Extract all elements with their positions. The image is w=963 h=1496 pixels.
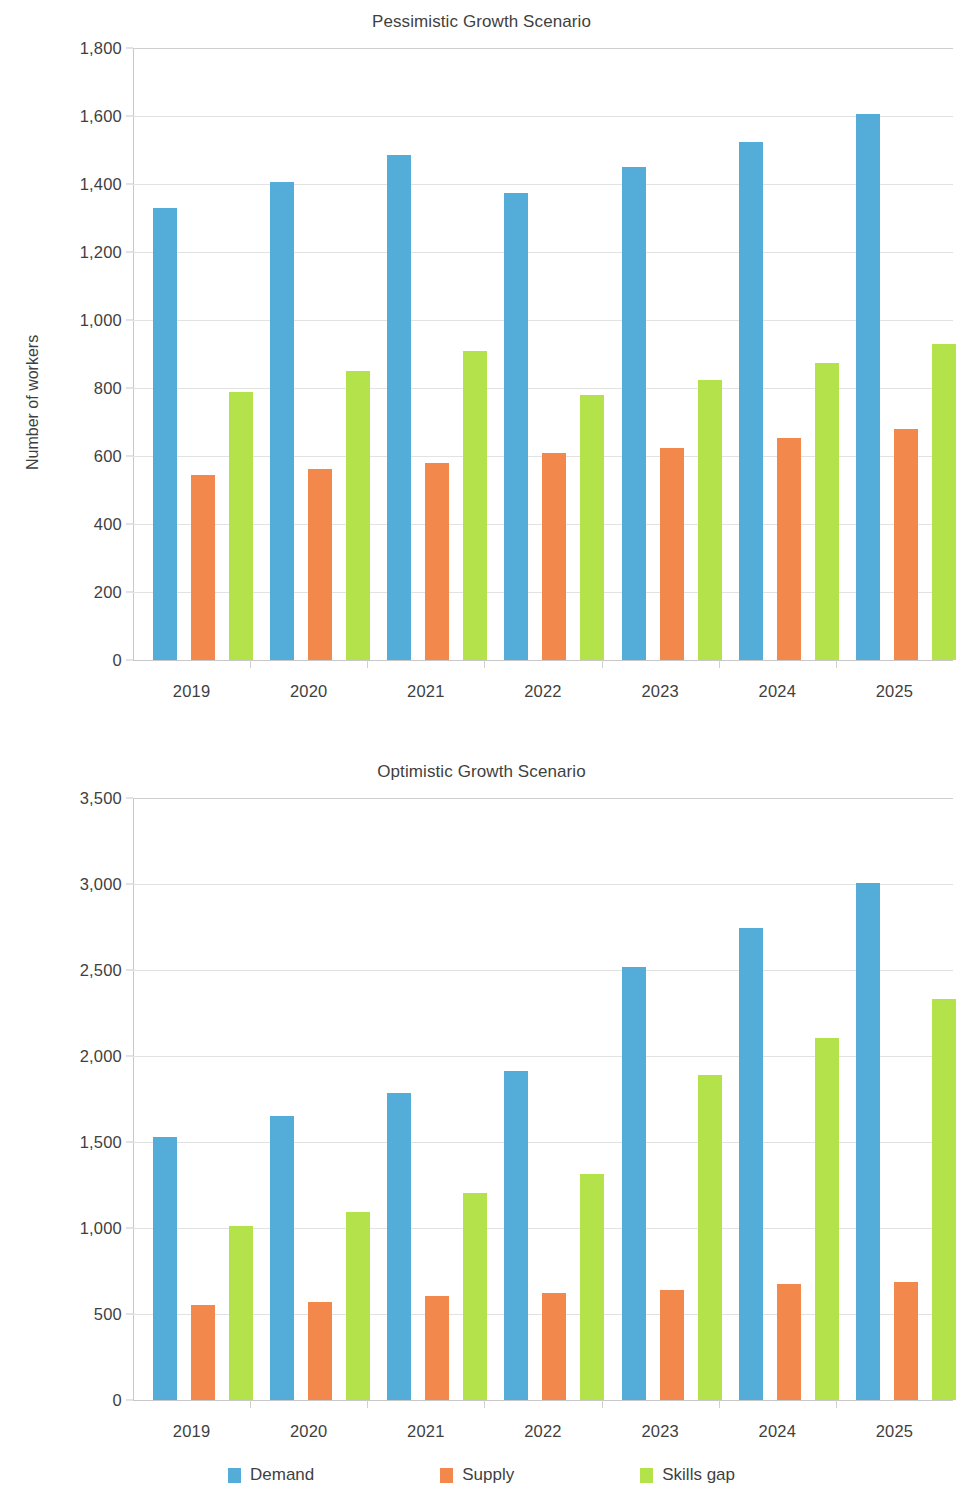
bar-skills-gap-2025 <box>932 999 956 1400</box>
bar-skills-gap-2023 <box>698 380 722 661</box>
y-axis-tick-mark <box>126 524 133 525</box>
bar-demand-2020 <box>270 182 294 660</box>
optimistic-scenario-chart: Optimistic Growth Scenario Number of wor… <box>0 750 963 1450</box>
bar-demand-2020 <box>270 1116 294 1400</box>
x-axis-tick-mark <box>250 660 251 668</box>
bar-skills-gap-2022 <box>580 395 604 660</box>
gridline <box>133 116 953 117</box>
gridline <box>133 884 953 885</box>
bar-skills-gap-2019 <box>229 392 253 660</box>
x-axis-tick-label-2021: 2021 <box>367 682 484 701</box>
y-axis-tick-label: 1,400 <box>80 175 133 194</box>
bar-supply-2020 <box>308 469 332 660</box>
bar-demand-2022 <box>504 193 528 661</box>
x-axis-tick-mark <box>719 1400 720 1408</box>
y-axis-tick-label: 1,200 <box>80 243 133 262</box>
y-axis-tick-mark <box>126 456 133 457</box>
bar-supply-2020 <box>308 1302 332 1400</box>
y-axis-tick-label: 1,600 <box>80 107 133 126</box>
x-axis-tick-mark <box>250 1400 251 1408</box>
gridline <box>133 48 953 49</box>
gridline <box>133 320 953 321</box>
bar-skills-gap-2020 <box>346 1212 370 1400</box>
chart-title-optimistic: Optimistic Growth Scenario <box>0 762 963 782</box>
y-axis-tick-mark <box>126 320 133 321</box>
y-axis-tick-mark <box>126 798 133 799</box>
gridline <box>133 660 953 661</box>
bar-supply-2025 <box>894 1282 918 1400</box>
bar-demand-2024 <box>739 142 763 661</box>
legend-item-demand[interactable]: Demand <box>228 1465 314 1485</box>
x-axis-tick-label-2024: 2024 <box>719 1422 836 1441</box>
y-axis-tick-label: 2,500 <box>80 961 133 980</box>
bar-supply-2023 <box>660 448 684 661</box>
y-axis-tick-mark <box>126 1314 133 1315</box>
y-axis-tick-mark <box>126 1228 133 1229</box>
bar-supply-2025 <box>894 429 918 660</box>
gridline <box>133 798 953 799</box>
y-axis-tick-mark <box>126 388 133 389</box>
x-axis-tick-mark <box>367 1400 368 1408</box>
x-axis-tick-label-2025: 2025 <box>836 1422 953 1441</box>
chart-page: Pessimistic Growth Scenario Number of wo… <box>0 0 963 1496</box>
x-axis-tick-mark <box>484 660 485 668</box>
bar-supply-2019 <box>191 475 215 660</box>
legend-item-supply[interactable]: Supply <box>440 1465 514 1485</box>
bar-supply-2024 <box>777 1284 801 1400</box>
bar-skills-gap-2021 <box>463 351 487 660</box>
bar-supply-2024 <box>777 438 801 660</box>
y-axis-tick-mark <box>126 48 133 49</box>
y-axis-tick-mark <box>126 1400 133 1401</box>
x-axis-tick-mark <box>836 660 837 668</box>
x-axis-tick-mark <box>719 660 720 668</box>
legend-label: Demand <box>250 1465 314 1485</box>
legend-swatch-icon <box>640 1468 653 1483</box>
y-axis-tick-mark <box>126 184 133 185</box>
gridline <box>133 252 953 253</box>
x-axis-tick-label-2024: 2024 <box>719 682 836 701</box>
y-axis-line <box>133 798 134 1400</box>
legend-swatch-icon <box>228 1468 241 1483</box>
y-axis-label-pessimistic: Number of workers <box>24 335 42 470</box>
x-axis-tick-mark <box>367 660 368 668</box>
bar-skills-gap-2019 <box>229 1226 253 1400</box>
bar-skills-gap-2021 <box>463 1193 487 1400</box>
bar-demand-2021 <box>387 1093 411 1400</box>
y-axis-tick-label: 1,500 <box>80 1133 133 1152</box>
bar-skills-gap-2020 <box>346 371 370 660</box>
chart-legend: DemandSupplySkills gap <box>0 1460 963 1490</box>
gridline <box>133 970 953 971</box>
chart-title-pessimistic: Pessimistic Growth Scenario <box>0 12 963 32</box>
y-axis-tick-label: 1,000 <box>80 1219 133 1238</box>
x-axis-tick-label-2019: 2019 <box>133 1422 250 1441</box>
legend-item-skills-gap[interactable]: Skills gap <box>640 1465 735 1485</box>
y-axis-tick-mark <box>126 1056 133 1057</box>
y-axis-tick-label: 1,800 <box>80 39 133 58</box>
bar-supply-2021 <box>425 463 449 660</box>
y-axis-tick-mark <box>126 1142 133 1143</box>
bar-supply-2023 <box>660 1290 684 1400</box>
x-axis-tick-label-2020: 2020 <box>250 1422 367 1441</box>
y-axis-line <box>133 48 134 660</box>
plot-area-pessimistic: 02004006008001,0001,2001,4001,6001,80020… <box>133 48 953 660</box>
legend-label: Supply <box>462 1465 514 1485</box>
bar-skills-gap-2025 <box>932 344 956 660</box>
bar-demand-2023 <box>622 967 646 1400</box>
x-axis-tick-label-2023: 2023 <box>602 682 719 701</box>
x-axis-tick-label-2019: 2019 <box>133 682 250 701</box>
y-axis-tick-mark <box>126 660 133 661</box>
y-axis-tick-label: 2,000 <box>80 1047 133 1066</box>
y-axis-tick-label: 3,000 <box>80 875 133 894</box>
bar-demand-2021 <box>387 155 411 660</box>
bar-demand-2022 <box>504 1071 528 1400</box>
legend-swatch-icon <box>440 1468 453 1483</box>
y-axis-tick-label: 3,500 <box>80 789 133 808</box>
y-axis-tick-mark <box>126 252 133 253</box>
x-axis-tick-label-2022: 2022 <box>484 1422 601 1441</box>
x-axis-tick-label-2025: 2025 <box>836 682 953 701</box>
bar-supply-2021 <box>425 1296 449 1400</box>
bar-supply-2022 <box>542 453 566 660</box>
gridline <box>133 184 953 185</box>
x-axis-tick-mark <box>602 1400 603 1408</box>
x-axis-tick-label-2021: 2021 <box>367 1422 484 1441</box>
